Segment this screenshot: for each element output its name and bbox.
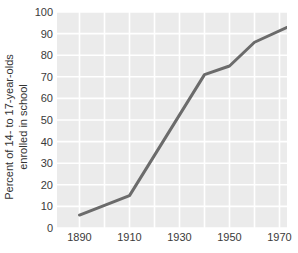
y-axis-tick-labels: 0102030405060708090100: [26, 0, 53, 253]
y-tick-label: 30: [26, 158, 53, 169]
y-tick-label: 60: [26, 93, 53, 104]
y-tick-label: 40: [26, 136, 53, 147]
y-tick-label: 90: [26, 28, 53, 39]
y-tick-label: 70: [26, 71, 53, 82]
line-chart: Percent of 14- to 17-year-olds enrolled …: [0, 0, 297, 253]
data-series-line: [80, 23, 288, 215]
y-tick-label: 80: [26, 50, 53, 61]
y-tick-label: 50: [26, 115, 53, 126]
y-tick-label: 100: [26, 7, 53, 18]
x-tick-label: 1930: [157, 231, 203, 244]
y-tick-label: 10: [26, 201, 53, 212]
plot-area: [57, 12, 287, 228]
x-tick-label: 1950: [207, 231, 253, 244]
y-tick-label: 20: [26, 179, 53, 190]
y-axis-title-line-1: Percent of 14- to 17-year-olds: [2, 54, 16, 200]
plot-svg: [57, 12, 287, 228]
x-tick-label: 1910: [107, 231, 153, 244]
x-axis-tick-labels: 18901910193019501970: [0, 231, 297, 251]
x-tick-label: 1890: [57, 231, 103, 244]
x-tick-label: 1970: [257, 231, 298, 244]
